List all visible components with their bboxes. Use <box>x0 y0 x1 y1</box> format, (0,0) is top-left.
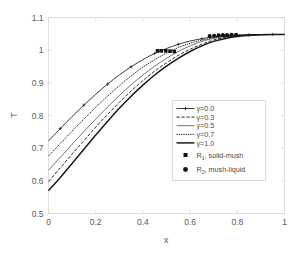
y-tick-label: 0.5 <box>32 209 44 219</box>
x-axis-label: x <box>164 234 169 245</box>
legend-square-icon <box>184 153 188 157</box>
y-tick-label: 0.8 <box>32 111 44 121</box>
y-tick-label: 0.6 <box>32 176 44 186</box>
marker-circle-R2 <box>217 33 221 37</box>
line-chart: 00.20.40.60.81 0.50.60.70.80.911.1 x T γ… <box>0 0 293 257</box>
y-axis-label: T <box>8 112 19 118</box>
y-tick-label: 0.9 <box>32 78 44 88</box>
marker-circle-R2 <box>234 33 238 37</box>
marker-square-R1 <box>156 49 160 53</box>
marker-circle-R2 <box>208 34 212 38</box>
legend-circle-icon <box>183 167 188 172</box>
legend-label: γ=1.0 <box>197 139 215 148</box>
marker-circle-R2 <box>225 33 229 37</box>
marker-square-R1 <box>160 49 164 53</box>
marker-square-R1 <box>164 49 168 53</box>
y-tick-label: 0.7 <box>32 143 44 153</box>
marker-circle-R2 <box>221 33 225 37</box>
chart-figure: 00.20.40.60.81 0.50.60.70.80.911.1 x T γ… <box>0 0 293 257</box>
x-tick-label: 1 <box>282 217 287 227</box>
x-tick-label: 0 <box>46 217 51 227</box>
marker-circle-R2 <box>230 33 234 37</box>
x-tick-label: 0.8 <box>231 217 243 227</box>
chart-legend: γ=0.0γ=0.3γ=0.5γ=0.7γ=1.0R1, solid-mushR… <box>173 101 266 181</box>
marker-square-R1 <box>172 50 176 54</box>
legend-marker-label: R2, mush-liquid <box>197 165 246 175</box>
x-tick-label: 0.2 <box>90 217 102 227</box>
marker-square-R1 <box>168 49 172 53</box>
x-tick-label: 0.4 <box>137 217 149 227</box>
y-tick-label: 1.1 <box>32 13 44 23</box>
x-tick-label: 0.6 <box>184 217 196 227</box>
marker-circle-R2 <box>212 34 216 38</box>
y-tick-label: 1 <box>39 45 44 55</box>
